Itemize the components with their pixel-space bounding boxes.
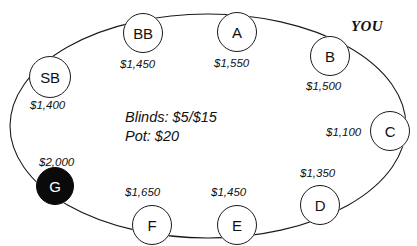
seat-f[interactable]: F	[132, 205, 172, 245]
stack-amount-d: $1,350	[300, 167, 335, 179]
seat-label-f: F	[148, 218, 157, 233]
seat-bb[interactable]: BB	[123, 13, 163, 53]
blinds-text: Blinds: $5/$15	[125, 108, 217, 127]
stack-amount-bb: $1,450	[120, 58, 155, 70]
center-info: Blinds: $5/$15 Pot: $20	[125, 108, 217, 146]
seat-d[interactable]: D	[300, 185, 340, 225]
seat-label-sb: SB	[40, 70, 60, 85]
pot-text: Pot: $20	[125, 127, 217, 146]
poker-table-diagram: SBBBABCDEFG Blinds: $5/$15 Pot: $20 YOU …	[0, 0, 417, 246]
seat-label-d: D	[315, 198, 326, 213]
stack-amount-f: $1,650	[125, 186, 160, 198]
stack-amount-b: $1,500	[306, 80, 341, 92]
seat-label-c: C	[385, 124, 396, 139]
stack-amount-g: $2,000	[39, 156, 74, 168]
stack-amount-sb: $1,400	[30, 99, 65, 111]
seat-label-e: E	[232, 218, 242, 233]
seat-sb[interactable]: SB	[29, 56, 71, 98]
seat-c[interactable]: C	[370, 111, 410, 151]
seat-b[interactable]: B	[310, 36, 350, 76]
seat-g[interactable]: G	[36, 167, 74, 205]
seat-label-b: B	[325, 49, 335, 64]
seat-label-bb: BB	[133, 26, 153, 41]
seat-e[interactable]: E	[217, 205, 257, 245]
you-marker-label: YOU	[351, 18, 383, 35]
stack-amount-c: $1,100	[326, 126, 361, 138]
seat-label-g: G	[49, 179, 60, 194]
seat-a[interactable]: A	[217, 12, 257, 52]
stack-amount-e: $1,450	[211, 186, 246, 198]
stack-amount-a: $1,550	[214, 57, 249, 69]
seat-label-a: A	[232, 25, 242, 40]
